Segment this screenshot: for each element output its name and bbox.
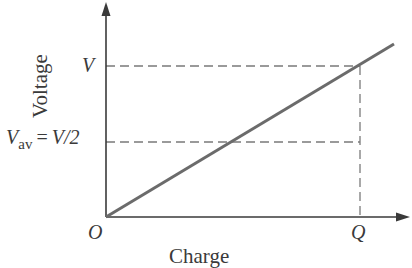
- y-axis-arrow-icon: [102, 2, 111, 16]
- vav-rhs: V/2: [52, 126, 80, 148]
- x-axis-arrow-icon: [396, 213, 410, 222]
- vav-subscript: av: [18, 136, 32, 152]
- x-axis-title: Charge: [169, 246, 229, 267]
- origin-label: O: [88, 222, 102, 242]
- vav-equals: =: [36, 126, 47, 148]
- q-tick-label: Q: [351, 222, 365, 242]
- v-tick-label: V: [82, 55, 94, 75]
- vav-tick-label: Vav=V/2: [6, 127, 79, 152]
- y-axis-title: Voltage: [30, 54, 51, 118]
- vav-symbol: V: [6, 126, 18, 148]
- voltage-line: [106, 44, 394, 217]
